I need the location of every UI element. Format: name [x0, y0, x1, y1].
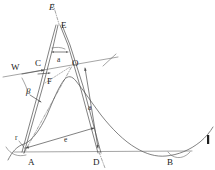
- label-O: O: [72, 58, 79, 68]
- label-r: r: [15, 133, 18, 142]
- label-C: C: [35, 58, 41, 68]
- profile-curve: [8, 77, 213, 160]
- geometry-diagram-canvas: E E a W C O F β a e r A D B: [0, 0, 215, 170]
- label-beta: β: [25, 86, 31, 96]
- baseline-ground-line: [14, 151, 192, 152]
- label-A: A: [28, 157, 35, 167]
- angle-alpha-arc: [52, 47, 68, 52]
- centreline-below-D: [99, 152, 105, 168]
- angle-beta-arc: [22, 78, 41, 102]
- tangent-tick-right: [103, 54, 116, 66]
- label-B: B: [167, 157, 173, 167]
- label-alpha: a: [57, 55, 61, 64]
- label-W: W: [11, 62, 20, 72]
- force-line-W: [3, 57, 118, 77]
- label-D: D: [93, 157, 100, 167]
- cropped-edge-mark: [207, 135, 209, 144]
- wedge-right-edge-DE: [60, 25, 98, 153]
- label-F: F: [47, 76, 52, 86]
- label-e: e: [64, 135, 68, 144]
- arrow-C-to-F: [38, 73, 50, 74]
- label-E-top: E: [48, 2, 55, 12]
- figure-container: E E a W C O F β a e r A D B: [0, 0, 215, 170]
- label-E-apex: E: [61, 20, 67, 30]
